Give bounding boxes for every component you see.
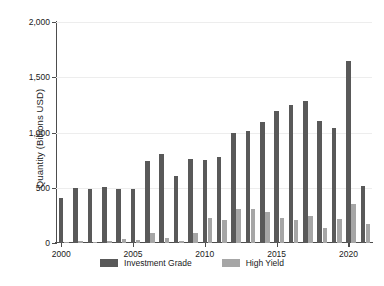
bar <box>294 220 299 243</box>
bar <box>174 176 179 243</box>
bar <box>280 218 285 243</box>
bar <box>107 241 112 243</box>
x-tick-mark <box>205 243 206 247</box>
y-tick-label: 500 <box>36 183 50 193</box>
bar <box>346 61 351 243</box>
y-tick-label: 1,500 <box>29 72 50 82</box>
bar <box>274 111 279 243</box>
bar <box>188 159 193 243</box>
legend-label: High Yield <box>246 258 284 268</box>
y-tick-label: 1,000 <box>29 128 50 138</box>
bar <box>88 189 93 243</box>
gridline <box>56 77 372 78</box>
chart-legend: Investment GradeHigh Yield <box>0 258 384 268</box>
legend-label: Investment Grade <box>124 258 192 268</box>
y-tick-mark <box>52 22 56 23</box>
y-tick-mark <box>52 133 56 134</box>
bar <box>116 189 121 243</box>
bar <box>217 157 222 243</box>
bar <box>231 133 236 244</box>
legend-swatch <box>222 259 240 267</box>
bar <box>159 154 164 243</box>
bar <box>122 239 127 243</box>
legend-swatch <box>100 259 118 267</box>
bar <box>361 186 366 243</box>
bar <box>145 161 150 243</box>
bar <box>136 240 141 243</box>
bar <box>179 241 184 243</box>
bar-chart-figure: Quantity (Billions USD) 05001,0001,5002,… <box>0 0 384 286</box>
bar <box>332 128 337 243</box>
bar <box>323 228 328 243</box>
y-tick-mark <box>52 188 56 189</box>
y-tick-label: 0 <box>45 238 50 248</box>
bar <box>246 131 251 243</box>
y-tick-mark <box>52 243 56 244</box>
bar <box>351 204 356 243</box>
bar <box>236 209 241 243</box>
gridline <box>56 133 372 134</box>
bar <box>317 121 322 243</box>
plot-area: 05001,0001,5002,000 20002005201020152020 <box>56 22 372 243</box>
bar <box>222 220 227 243</box>
bar <box>251 209 256 243</box>
bar <box>303 101 308 243</box>
bar <box>73 188 78 243</box>
bar <box>265 212 270 243</box>
bar <box>93 242 98 243</box>
gridline <box>56 22 372 23</box>
bar <box>102 187 107 243</box>
bar <box>64 242 69 243</box>
bar <box>165 238 170 243</box>
bar <box>78 241 83 243</box>
x-tick-mark <box>277 243 278 247</box>
bar <box>59 198 64 243</box>
y-tick-label: 2,000 <box>29 17 50 27</box>
y-tick-mark <box>52 77 56 78</box>
bar <box>131 189 136 243</box>
bar <box>337 219 342 243</box>
x-tick-mark <box>133 243 134 247</box>
x-tick-mark <box>61 243 62 247</box>
bar <box>289 105 294 243</box>
bar <box>208 218 213 243</box>
bar <box>203 160 208 243</box>
legend-entry[interactable]: High Yield <box>222 258 284 268</box>
bar <box>260 122 265 243</box>
x-tick-mark <box>348 243 349 247</box>
legend-entry[interactable]: Investment Grade <box>100 258 192 268</box>
bar <box>150 233 155 243</box>
bar <box>308 216 313 243</box>
y-axis-title: Quantity (Billions USD) <box>34 34 45 244</box>
bar <box>193 233 198 243</box>
bar <box>366 224 371 243</box>
